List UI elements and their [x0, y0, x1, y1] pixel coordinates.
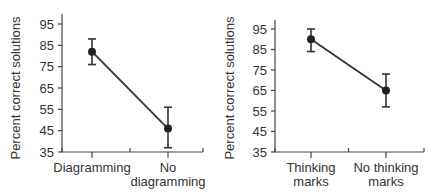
y-tick-label: 55: [253, 104, 267, 119]
y-tick-label: 75: [253, 63, 267, 78]
x-category-label: marks: [293, 174, 329, 189]
series-line: [92, 52, 168, 129]
y-tick-label: 45: [253, 124, 267, 139]
y-tick-label: 35: [253, 145, 267, 160]
y-tick-label: 45: [40, 123, 54, 138]
data-point: [307, 35, 315, 43]
y-axis-title: Percent correct solutions: [8, 16, 23, 160]
y-tick-label: 95: [40, 17, 54, 32]
data-point: [382, 87, 390, 95]
x-category-label: Thinking: [286, 160, 335, 175]
y-tick-label: 75: [40, 59, 54, 74]
chart-panel-2: 35455565758595Percent correct solutionsT…: [222, 16, 424, 189]
data-point: [88, 48, 96, 56]
chart-figure: 35455565758595Percent correct solutionsD…: [0, 0, 445, 196]
y-tick-label: 65: [253, 83, 267, 98]
y-tick-label: 65: [40, 81, 54, 96]
x-category-label: marks: [368, 174, 404, 189]
x-category-label: No thinking: [353, 160, 418, 175]
chart-panel-1: 35455565758595Percent correct solutionsD…: [8, 14, 206, 189]
y-tick-label: 85: [40, 38, 54, 53]
y-axis-title: Percent correct solutions: [222, 16, 237, 160]
x-category-label: No: [160, 160, 177, 175]
x-category-label: diagramming: [130, 174, 205, 189]
y-tick-label: 55: [40, 102, 54, 117]
y-tick-label: 95: [253, 22, 267, 37]
data-point: [164, 125, 172, 133]
y-tick-label: 85: [253, 42, 267, 57]
y-tick-label: 35: [40, 145, 54, 160]
x-category-label: Diagramming: [53, 160, 130, 175]
series-line: [311, 39, 386, 90]
